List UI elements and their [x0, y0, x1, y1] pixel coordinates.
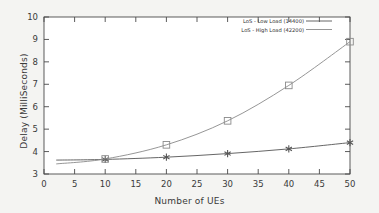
- x-tick-label: 5: [63, 179, 87, 189]
- y-tick-label: 7: [18, 79, 38, 89]
- y-tick-label: 6: [18, 102, 38, 112]
- x-tick-label: 0: [32, 179, 56, 189]
- x-tick-label: 10: [93, 179, 117, 189]
- y-tick-label: 5: [18, 124, 38, 134]
- y-tick-label: 3: [18, 169, 38, 179]
- x-tick-label: 25: [185, 179, 209, 189]
- x-tick-label: 50: [338, 179, 362, 189]
- y-tick-label: 9: [18, 34, 38, 44]
- legend-entry-label: LoS - Low Load (14400): [200, 18, 304, 24]
- plot-background: [44, 17, 350, 174]
- x-tick-label: 15: [124, 179, 148, 189]
- x-tick-label: 40: [277, 179, 301, 189]
- legend-entry-label: LoS - High Load (42200): [200, 27, 304, 33]
- x-tick-label: 20: [154, 179, 178, 189]
- chart-figure: Delay (MilliSeconds) Number of UEs 34567…: [0, 0, 379, 213]
- x-axis-label: Number of UEs: [0, 196, 379, 206]
- y-tick-label: 8: [18, 57, 38, 67]
- x-tick-label: 35: [246, 179, 270, 189]
- x-tick-label: 30: [216, 179, 240, 189]
- x-tick-label: 45: [307, 179, 331, 189]
- y-tick-label: 10: [18, 12, 38, 22]
- y-tick-label: 4: [18, 147, 38, 157]
